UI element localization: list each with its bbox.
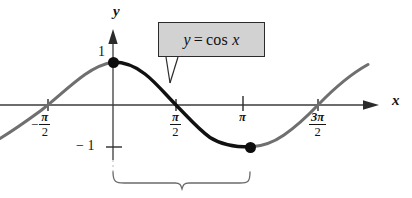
callout-leader-line <box>166 57 170 83</box>
equals-sign: = <box>191 31 206 48</box>
numerator: π <box>39 110 50 125</box>
x-axis-label: x <box>392 93 400 108</box>
denominator: 2 <box>309 125 326 139</box>
cosine-graph-figure: x y 1 − 1 − π 2 π 2 π 3π 2 y=cos x <box>0 0 412 198</box>
min-point-marker <box>245 142 256 153</box>
max-point-marker <box>108 57 119 68</box>
numerator: 3π <box>309 110 326 125</box>
tick-label-pi-over-2: π 2 <box>170 110 181 139</box>
denominator: 2 <box>170 125 181 139</box>
function-lhs: y <box>184 31 191 48</box>
cosine-curve-left-segment <box>0 62 113 139</box>
function-label-box: y=cos x <box>158 22 265 57</box>
callout-leader-line-2 <box>170 57 178 83</box>
tick-label-3pi-over-2: 3π 2 <box>309 110 326 139</box>
y-axis-label: y <box>113 4 120 19</box>
tick-label-pi: π <box>239 111 246 124</box>
y-axis-arrowhead <box>108 29 117 44</box>
minus-sign: − <box>31 118 38 131</box>
tick-label-y-neg-one: − 1 <box>76 139 94 153</box>
cos-function-name: cos <box>206 31 228 48</box>
denominator: 2 <box>39 125 50 139</box>
period-brace-path <box>113 172 250 189</box>
function-arg: x <box>232 31 239 48</box>
function-label-text: y=cos x <box>184 31 240 49</box>
x-axis-arrowhead <box>363 100 379 110</box>
numerator: π <box>170 110 181 125</box>
tick-label-neg-pi-over-2: − π 2 <box>31 110 50 139</box>
tick-label-y-one: 1 <box>98 45 105 59</box>
